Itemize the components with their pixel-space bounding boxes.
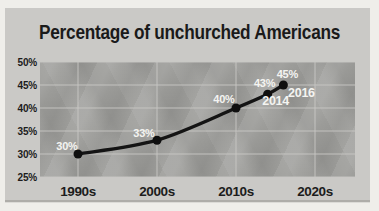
y-axis-tick-label: 40% xyxy=(18,103,38,114)
data-point-value-label: 43% xyxy=(254,77,276,89)
data-point-value-label: 30% xyxy=(56,140,78,152)
data-point-year-annotation: 2016 xyxy=(288,86,315,100)
y-axis-tick-label: 50% xyxy=(18,57,38,68)
y-axis-tick-label: 30% xyxy=(18,149,38,160)
x-axis-tick-label: 2010s xyxy=(218,184,254,199)
x-axis-tick-label: 2020s xyxy=(297,184,333,199)
y-axis-tick-label: 35% xyxy=(18,126,38,137)
page-background: Percentage of unchurched Americans 50%45… xyxy=(0,0,379,211)
data-point-value-label: 45% xyxy=(277,68,299,80)
line-chart-svg: 50%45%40%35%30%25%1990s2000s2010s2020s30… xyxy=(0,0,379,211)
x-axis-tick-label: 1990s xyxy=(60,184,96,199)
data-point xyxy=(279,81,288,90)
trend-line xyxy=(78,85,283,154)
data-point-value-label: 40% xyxy=(213,93,235,105)
x-axis-tick-label: 2000s xyxy=(139,184,175,199)
data-point-value-label: 33% xyxy=(133,127,155,139)
y-axis-tick-label: 45% xyxy=(18,80,38,91)
data-point-year-annotation: 2014 xyxy=(262,94,289,108)
y-axis-tick-label: 25% xyxy=(18,172,38,183)
